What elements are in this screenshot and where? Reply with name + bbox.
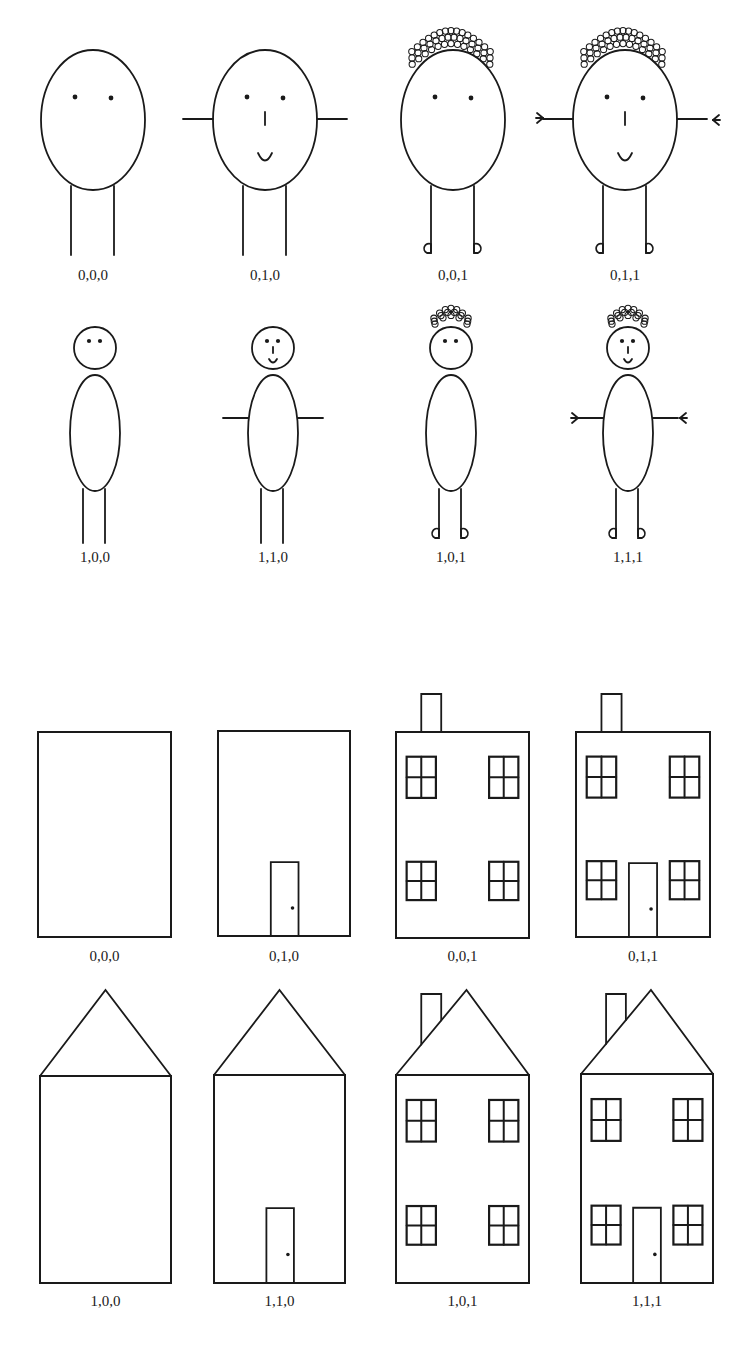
door-icon [271,862,299,936]
eye-icon [631,339,635,343]
window-icon [587,861,616,899]
window-icon [673,1099,702,1141]
condition-label: 0,0,1 [438,267,468,283]
house-wall [396,1075,529,1283]
condition-label: 0,1,1 [628,948,658,964]
person-figure [183,50,347,255]
house-figure [396,694,529,938]
head-body-oval [41,50,145,190]
house-figure [581,990,713,1283]
window-icon [407,757,436,798]
door-icon [633,1208,661,1283]
hand-icon [680,413,687,423]
condition-label: 0,1,0 [269,948,299,964]
roof-icon [581,990,713,1074]
house-wall [38,732,171,937]
house-wall [581,1074,713,1283]
person-figure [426,305,476,538]
smile-icon [618,153,632,161]
house-figure [40,990,171,1283]
eye-icon [245,95,250,100]
roof-icon [396,990,529,1075]
condition-label: 0,0,1 [448,948,478,964]
foot-icon [461,529,468,538]
foot-icon [596,244,603,253]
hand-icon [713,115,720,125]
window-icon [489,1206,518,1245]
eye-icon [87,339,91,343]
eye-icon [641,96,646,101]
people-row-1 [41,28,720,256]
condition-label: 0,0,0 [78,267,108,283]
door-icon [629,863,657,937]
doorknob-icon [291,906,295,910]
foot-icon [424,244,431,253]
condition-label: 1,0,1 [436,549,466,565]
window-icon [592,1206,621,1245]
eye-icon [281,96,286,101]
window-icon [407,862,436,900]
head-circle [74,327,116,369]
house-wall [218,731,350,936]
body-oval [70,375,120,491]
eye-icon [454,339,458,343]
smile-icon [269,359,277,363]
condition-label: 0,1,1 [610,267,640,283]
window-icon [407,1100,436,1142]
window-icon [407,1206,436,1245]
eye-icon [265,339,269,343]
hair-icon [431,305,471,327]
chimney-icon [421,694,441,732]
window-icon [670,757,699,798]
condition-label: 0,0,0 [90,948,120,964]
eye-icon [109,96,114,101]
body-oval [248,375,298,491]
condition-label: 1,0,0 [91,1293,121,1309]
condition-label: 1,1,1 [632,1293,662,1309]
eye-icon [620,339,624,343]
smile-icon [624,359,632,363]
eye-icon [469,96,474,101]
hand-icon [536,113,543,123]
house-figure [576,694,710,937]
person-figure [536,28,720,254]
houses-row-1 [38,694,710,938]
door-icon [266,1208,294,1283]
cropped-caption [40,1346,740,1355]
foot-icon [474,244,481,253]
window-icon [489,1100,518,1142]
foot-icon [646,244,653,253]
hand-icon [571,413,578,423]
chimney-icon [421,994,441,1045]
house-wall [396,732,529,938]
eye-icon [98,339,102,343]
house-wall [214,1075,345,1283]
foot-icon [609,529,616,538]
stimulus-figure: 0,0,00,1,00,0,10,1,11,0,01,1,01,0,11,1,1… [0,0,755,1355]
eye-icon [605,95,610,100]
person-figure [571,305,687,538]
eye-icon [443,339,447,343]
hair-icon [608,305,648,327]
window-icon [587,757,616,798]
house-figure [396,990,529,1283]
head-circle [430,327,472,369]
house-figure [214,990,345,1283]
chimney-icon [601,694,621,732]
doorknob-icon [653,1253,657,1257]
condition-label: 1,1,0 [265,1293,295,1309]
window-icon [489,757,518,798]
chimney-icon [606,994,626,1044]
roof-icon [40,990,171,1076]
window-icon [489,862,518,900]
person-figure [401,28,505,254]
head-body-oval [401,50,505,190]
person-figure [223,327,323,543]
condition-label: 1,1,0 [258,549,288,565]
house-figure [218,731,350,936]
body-oval [603,375,653,491]
body-oval [426,375,476,491]
doorknob-icon [649,907,653,911]
eye-icon [433,95,438,100]
doorknob-icon [286,1253,290,1257]
